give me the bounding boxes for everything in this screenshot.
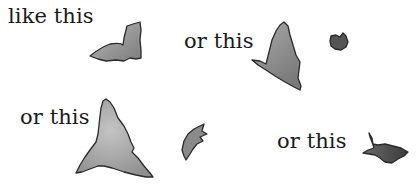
leaf-shape-1: [90, 22, 141, 61]
leaf-shape-2: [252, 22, 301, 90]
leaf-shape-6: [363, 133, 408, 163]
leaf-shape-3: [330, 33, 348, 50]
leaf-shape-4: [76, 99, 153, 177]
illustration-canvas: like this or this or this or this: [0, 0, 416, 186]
shapes-layer: [0, 0, 416, 186]
leaf-shape-5: [182, 124, 207, 160]
